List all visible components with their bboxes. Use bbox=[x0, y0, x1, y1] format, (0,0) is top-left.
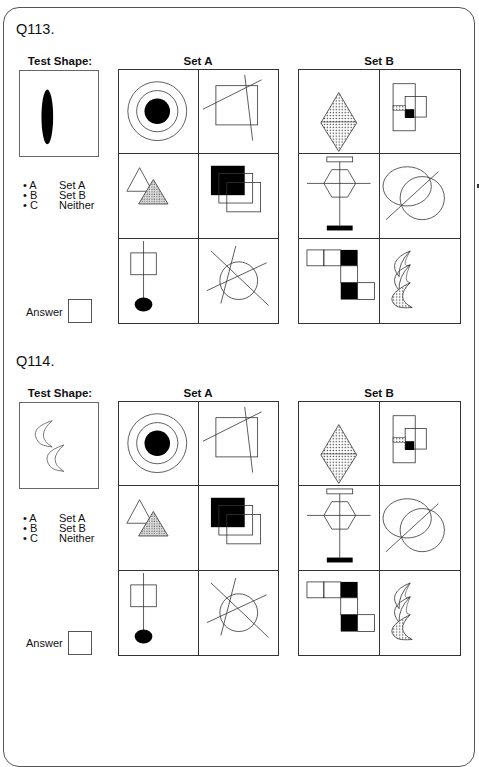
set-a-heading: Set A bbox=[118, 387, 278, 399]
stacked-squares-icon bbox=[199, 154, 279, 237]
hexagon-bars-icon bbox=[299, 154, 379, 237]
set-b-heading: Set B bbox=[298, 387, 460, 399]
pendulum-shape-icon bbox=[119, 239, 198, 323]
stacked-squares-icon bbox=[199, 486, 279, 569]
option-letter: C bbox=[30, 532, 38, 544]
dotted-diamond-icon bbox=[299, 402, 379, 485]
question-number: Q113. bbox=[16, 21, 54, 37]
set-a-heading: Set A bbox=[118, 55, 278, 67]
set-a-cell-3 bbox=[119, 154, 199, 238]
test-shape-box bbox=[19, 70, 99, 157]
answer-label: Answer bbox=[26, 306, 63, 318]
answer-input[interactable] bbox=[68, 631, 92, 655]
set-b-cell-4 bbox=[380, 486, 461, 570]
set-b-cell-1 bbox=[299, 70, 380, 154]
dotted-diamond-icon bbox=[299, 70, 379, 153]
two-triangles-icon bbox=[119, 154, 198, 237]
set-b-cell-3 bbox=[299, 154, 380, 238]
set-b-heading: Set B bbox=[298, 55, 460, 67]
pendulum-shape-icon bbox=[119, 571, 198, 655]
bullet-icon: • bbox=[23, 199, 27, 211]
option-text: Neither bbox=[59, 200, 94, 210]
set-a-cell-4 bbox=[199, 486, 279, 570]
block-path-icon bbox=[299, 239, 379, 323]
concentric-circles-icon bbox=[119, 70, 198, 153]
set-a-cell-1 bbox=[119, 402, 199, 486]
two-triangles-icon bbox=[119, 486, 198, 569]
question-number: Q114. bbox=[16, 353, 54, 369]
answer-label: Answer bbox=[26, 637, 63, 649]
set-a-cell-6 bbox=[199, 571, 279, 655]
set-b-cell-5 bbox=[299, 571, 380, 655]
set-b-cell-2 bbox=[380, 402, 461, 486]
set-b-cell-6 bbox=[380, 571, 461, 655]
square-crossed-lines-icon bbox=[199, 402, 279, 485]
test-shape-heading: Test Shape: bbox=[20, 55, 100, 67]
set-a-cell-3 bbox=[119, 486, 199, 570]
set-a-cell-2 bbox=[199, 70, 279, 154]
set-b-grid bbox=[298, 69, 461, 324]
test-shape-box bbox=[19, 402, 99, 489]
set-b-cell-2 bbox=[380, 70, 461, 154]
set-b-cell-3 bbox=[299, 486, 380, 570]
set-b-cell-5 bbox=[299, 239, 380, 323]
overlapping-rectangles-icon bbox=[380, 70, 461, 153]
crescents-icon bbox=[380, 571, 461, 655]
two-circles-line-icon bbox=[380, 486, 461, 569]
square-crossed-lines-icon bbox=[199, 70, 279, 153]
set-a-cell-4 bbox=[199, 154, 279, 238]
set-a-grid bbox=[118, 401, 279, 656]
set-a-cell-1 bbox=[119, 70, 199, 154]
set-a-cell-6 bbox=[199, 239, 279, 323]
concentric-circles-icon bbox=[119, 402, 198, 485]
options-list: • ASet A • BSet B • CNeither bbox=[23, 513, 94, 543]
option-letter: C bbox=[30, 199, 38, 211]
answer-input[interactable] bbox=[68, 299, 92, 323]
set-a-cell-5 bbox=[119, 239, 199, 323]
bullet-icon: • bbox=[23, 532, 27, 544]
overlapping-rectangles-icon bbox=[380, 402, 461, 485]
black-ellipse-icon bbox=[20, 71, 98, 156]
crescents-icon bbox=[380, 239, 461, 323]
option-c[interactable]: • CNeither bbox=[23, 533, 94, 543]
circle-crossed-lines-icon bbox=[199, 239, 279, 323]
options-list: • ASet A • BSet B • CNeither bbox=[23, 180, 94, 210]
set-b-cell-6 bbox=[380, 239, 461, 323]
set-a-cell-2 bbox=[199, 402, 279, 486]
circle-crossed-lines-icon bbox=[199, 571, 279, 655]
set-a-cell-5 bbox=[119, 571, 199, 655]
set-b-cell-4 bbox=[380, 154, 461, 238]
crescents-icon bbox=[20, 403, 98, 488]
two-circles-line-icon bbox=[380, 154, 461, 237]
set-b-grid bbox=[298, 401, 461, 656]
block-path-icon bbox=[299, 571, 379, 655]
set-a-grid bbox=[118, 69, 279, 324]
hexagon-bars-icon bbox=[299, 486, 379, 569]
test-shape-heading: Test Shape: bbox=[20, 387, 100, 399]
set-b-cell-1 bbox=[299, 402, 380, 486]
option-text: Neither bbox=[59, 533, 94, 543]
option-c[interactable]: • CNeither bbox=[23, 200, 94, 210]
